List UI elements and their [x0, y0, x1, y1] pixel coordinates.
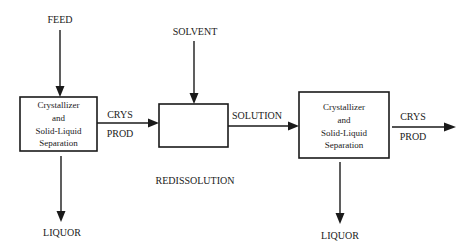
liquor-1-arrow [57, 156, 66, 222]
crys-prod-1-label-bottom: PROD [107, 128, 134, 139]
crystallizer-2-line-3: Solid-Liquid [321, 128, 368, 138]
redissolution-label: REDISSOLUTION [156, 175, 235, 186]
crystallizer-1-line-2: and [52, 113, 65, 123]
liquor-2-label: LIQUOR [321, 230, 359, 241]
crystallizer-1-line-4: Separation [39, 138, 78, 148]
solvent-arrow [190, 41, 199, 104]
crystallizer-2-line-1: Crystallizer [323, 102, 365, 112]
solution-label: SOLUTION [232, 110, 282, 121]
liquor-1-label: LIQUOR [43, 227, 81, 238]
solution-arrow [228, 122, 299, 131]
feed-arrow [56, 30, 65, 97]
feed-label: FEED [48, 14, 73, 25]
solvent-label: SOLVENT [173, 26, 218, 37]
crystallizer-2-line-2: and [338, 115, 351, 125]
process-flow-diagram: FEED Crystallizer and Solid-Liquid Separ… [0, 0, 472, 252]
redissolution-box [159, 104, 228, 147]
crys-prod-2-label-top: CRYS [400, 111, 426, 122]
crystallizer-1-line-1: Crystallizer [38, 100, 80, 110]
crystallizer-2-line-4: Separation [325, 140, 364, 150]
crystallizer-1-line-3: Solid-Liquid [35, 126, 82, 136]
crys-prod-2-label-bottom: PROD [400, 131, 427, 142]
crys-prod-1-label-top: CRYS [107, 109, 133, 120]
liquor-2-arrow [336, 162, 345, 224]
crystallizer-2-box: Crystallizer and Solid-Liquid Separation [299, 92, 389, 158]
crystallizer-1-box: Crystallizer and Solid-Liquid Separation [20, 97, 97, 151]
